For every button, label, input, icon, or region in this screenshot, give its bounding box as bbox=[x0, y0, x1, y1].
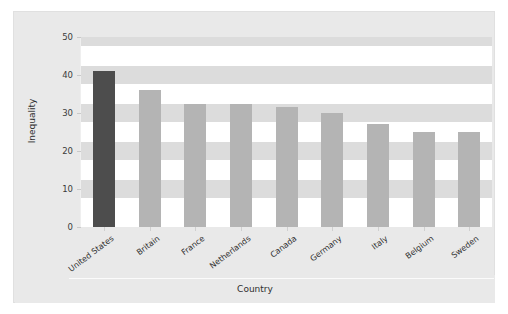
y-tick-label: 10 bbox=[47, 184, 73, 194]
x-axis-rule bbox=[69, 278, 494, 279]
grid-band bbox=[81, 66, 492, 84]
x-tick-mark bbox=[150, 227, 151, 231]
y-tick-label: 30 bbox=[47, 108, 73, 118]
y-tick-mark bbox=[77, 189, 81, 190]
x-tick-mark bbox=[424, 227, 425, 231]
bar[interactable] bbox=[276, 107, 298, 227]
bar[interactable] bbox=[139, 90, 161, 227]
bar[interactable] bbox=[413, 132, 435, 227]
y-tick-label: 0 bbox=[47, 222, 73, 232]
x-tick-mark bbox=[241, 227, 242, 231]
y-tick-mark bbox=[77, 227, 81, 228]
y-tick-label: 50 bbox=[47, 32, 73, 42]
x-axis-label: Country bbox=[14, 284, 496, 294]
y-tick-mark bbox=[77, 113, 81, 114]
y-tick-label: 20 bbox=[47, 146, 73, 156]
y-axis-label: Inequality bbox=[27, 81, 37, 161]
y-tick-mark bbox=[77, 75, 81, 76]
bar[interactable] bbox=[458, 132, 480, 227]
bar[interactable] bbox=[367, 124, 389, 227]
x-tick-mark bbox=[287, 227, 288, 231]
x-tick-mark bbox=[195, 227, 196, 231]
x-tick-mark bbox=[378, 227, 379, 231]
y-tick-label: 40 bbox=[47, 70, 73, 80]
x-tick-mark bbox=[469, 227, 470, 231]
bar[interactable] bbox=[230, 104, 252, 228]
chart-panel: 01020304050 Inequality United StatesBrit… bbox=[13, 11, 495, 303]
bar[interactable] bbox=[93, 71, 115, 227]
x-tick-mark bbox=[332, 227, 333, 231]
y-axis-line bbox=[80, 37, 81, 227]
plot-area bbox=[81, 37, 492, 227]
bar[interactable] bbox=[321, 113, 343, 227]
y-tick-mark bbox=[77, 37, 81, 38]
grid-band bbox=[81, 37, 492, 46]
y-tick-mark bbox=[77, 151, 81, 152]
chart-figure: 01020304050 Inequality United StatesBrit… bbox=[0, 0, 508, 314]
x-tick-mark bbox=[104, 227, 105, 231]
bar[interactable] bbox=[184, 104, 206, 228]
